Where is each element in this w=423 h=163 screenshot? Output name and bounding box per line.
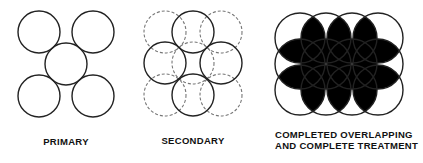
solid-circle: [72, 75, 114, 117]
solid-circle: [18, 75, 60, 117]
dashed-circle: [144, 74, 186, 116]
dashed-circle: [200, 74, 242, 116]
completed-overlapping-pattern: [275, 13, 403, 115]
solid-circle: [172, 74, 214, 116]
dashed-circle: [144, 11, 186, 53]
solid-circle: [144, 42, 186, 84]
solid-circle: [200, 42, 242, 84]
secondary-pattern: [144, 11, 242, 116]
primary-pattern: [18, 11, 114, 117]
secondary-label: SECONDARY: [152, 135, 234, 146]
completed-label-line-2: AND COMPLETE TREATMENT: [275, 140, 405, 151]
primary-label: PRIMARY: [26, 136, 106, 147]
completed-label-line-1: COMPLETED OVERLAPPING: [275, 129, 405, 140]
